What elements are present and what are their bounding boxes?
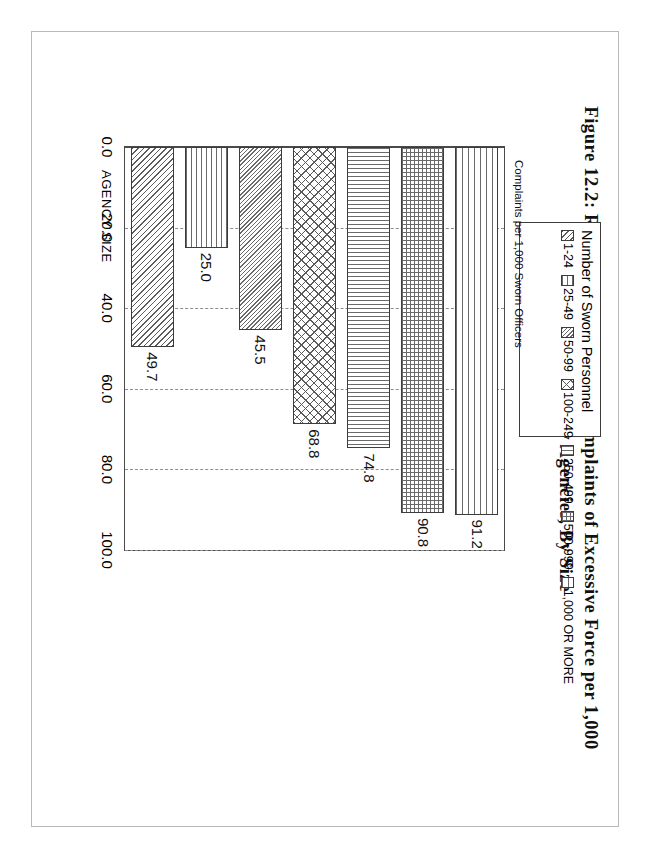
bar-25-49[interactable] — [185, 147, 228, 248]
bar-value-label: 74.8 — [360, 448, 377, 482]
legend-item-1-24[interactable]: 1-24 — [561, 230, 575, 268]
bar-row: 90.8 — [401, 147, 444, 550]
legend-item-25-49[interactable]: 25-49 — [561, 275, 575, 320]
legend-item-label: 100-249 — [561, 392, 575, 438]
bar-value-label: 68.8 — [306, 424, 323, 458]
bar-250-499[interactable] — [347, 147, 390, 448]
bar-50-99[interactable] — [239, 147, 282, 330]
legend-items: 1-24 25-49 50-99 100-249 250-499 — [561, 230, 575, 429]
value-axis-title: Complaints per 1,000 Sworn Officers — [513, 160, 525, 348]
bar-1-24[interactable] — [131, 147, 174, 347]
plot-inner: 49.725.045.568.874.890.891.2 — [125, 147, 504, 550]
legend-item-label: 25-49 — [561, 288, 575, 320]
legend-item-label: 250-499 — [561, 458, 575, 504]
plot-area: 49.725.045.568.874.890.891.2 — [124, 146, 505, 551]
category-axis-title: AGENCY SIZE — [99, 170, 114, 263]
bar-value-label: 49.7 — [144, 347, 161, 381]
legend-swatch-icon — [562, 577, 575, 588]
bar-row: 74.8 — [347, 147, 390, 550]
bar-row: 45.5 — [239, 147, 282, 550]
legend-item-100-249[interactable]: 100-249 — [561, 379, 575, 438]
figure-canvas: Figure 12.2: Reported 1991 Citizen Compl… — [36, 40, 611, 820]
value-tick-label: 80.0 — [99, 446, 116, 492]
bar-value-label: 45.5 — [252, 330, 269, 364]
legend-title: Number of Sworn Personnel — [579, 230, 595, 429]
bar-1-000-or-more[interactable] — [455, 147, 498, 515]
bar-value-label: 25.0 — [198, 248, 215, 282]
legend-swatch-icon — [562, 445, 575, 456]
bar-value-label: 90.8 — [414, 513, 431, 547]
bar-row: 49.7 — [131, 147, 174, 550]
legend-swatch-icon — [562, 275, 575, 286]
bar-500-999[interactable] — [401, 147, 444, 513]
bar-100-249[interactable] — [293, 147, 336, 424]
legend-item-label: 500-999 — [561, 524, 575, 570]
value-tick-label: 100.0 — [99, 527, 116, 573]
legend-item-1000-or-more[interactable]: 1,000 OR MORE — [561, 577, 575, 684]
value-tick-label: 0.0 — [99, 124, 116, 170]
bar-row: 91.2 — [455, 147, 498, 550]
legend-swatch-icon — [562, 327, 575, 338]
bar-row: 25.0 — [185, 147, 228, 550]
legend-item-50-99[interactable]: 50-99 — [561, 327, 575, 372]
value-tick-label: 60.0 — [99, 366, 116, 412]
bar-value-label: 91.2 — [468, 515, 485, 549]
legend-item-500-999[interactable]: 500-999 — [561, 511, 575, 570]
legend-item-label: 1,000 OR MORE — [561, 590, 575, 684]
gridline — [125, 550, 504, 551]
legend-item-label: 50-99 — [561, 340, 575, 372]
legend-swatch-icon — [562, 230, 575, 241]
page: Figure 12.2: Reported 1991 Citizen Compl… — [0, 0, 653, 860]
value-tick-label: 40.0 — [99, 285, 116, 331]
legend-swatch-icon — [562, 511, 575, 522]
bar-row: 68.8 — [293, 147, 336, 550]
legend-swatch-icon — [562, 379, 575, 390]
legend: Number of Sworn Personnel 1-24 25-49 50-… — [519, 222, 601, 437]
legend-item-250-499[interactable]: 250-499 — [561, 445, 575, 504]
legend-item-label: 1-24 — [561, 243, 575, 268]
